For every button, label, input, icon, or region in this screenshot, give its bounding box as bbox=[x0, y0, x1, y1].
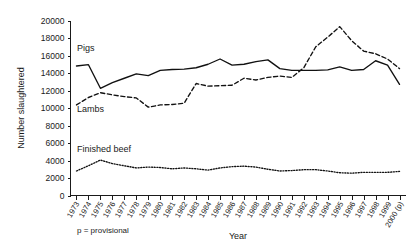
y-axis-tick-label: 20000 bbox=[41, 16, 65, 26]
chart-container: 0200040006000800010000120001400016000180… bbox=[0, 0, 420, 245]
y-axis-tick-label: 16000 bbox=[41, 51, 65, 61]
y-axis-tick-label: 14000 bbox=[41, 68, 65, 78]
series-label-lambs: Lambs bbox=[77, 104, 105, 114]
x-axis-title: Year bbox=[229, 231, 247, 241]
y-axis-tick-label: 2000 bbox=[46, 173, 65, 183]
series-line-finished-beef bbox=[76, 160, 399, 173]
y-axis-tick-label: 4000 bbox=[46, 156, 65, 166]
line-chart: 0200040006000800010000120001400016000180… bbox=[0, 0, 420, 245]
y-axis-tick-labels: 0200040006000800010000120001400016000180… bbox=[41, 16, 65, 201]
y-axis-tick-label: 6000 bbox=[46, 138, 65, 148]
footnote-provisional: p = provisional bbox=[77, 226, 129, 235]
y-axis-tick-label: 18000 bbox=[41, 33, 65, 43]
series-line-lambs bbox=[76, 27, 399, 108]
x-axis-ticks bbox=[77, 196, 401, 200]
y-axis-tick-label: 0 bbox=[60, 191, 65, 201]
y-axis-tick-label: 8000 bbox=[46, 121, 65, 131]
series-label-pigs: Pigs bbox=[77, 43, 95, 53]
x-axis-tick-labels: 1973197419751976197719781979198019811982… bbox=[65, 200, 405, 229]
series-line-pigs bbox=[76, 59, 399, 88]
y-axis-tick-label: 12000 bbox=[41, 86, 65, 96]
series-label-finished-beef: Finished beef bbox=[77, 144, 132, 154]
y-axis-tick-label: 10000 bbox=[41, 103, 65, 113]
y-axis-title: Number slaughtered bbox=[16, 67, 26, 149]
